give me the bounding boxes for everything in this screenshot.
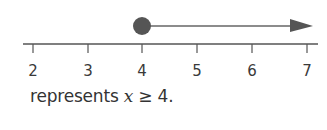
caption-relation: ≥ 4. <box>133 86 173 106</box>
caption-prefix: represents <box>30 86 124 106</box>
tick-label: 3 <box>83 62 93 80</box>
tick-label: 7 <box>302 62 312 80</box>
tick-label: 4 <box>137 62 147 80</box>
tick-group: 234567 <box>28 44 312 80</box>
number-line-diagram: 234567 <box>0 0 327 85</box>
caption-variable: x <box>124 86 133 106</box>
caption-text: represents x ≥ 4. <box>30 86 173 106</box>
closed-point-icon <box>133 17 151 35</box>
tick-label: 5 <box>192 62 202 80</box>
tick-label: 6 <box>247 62 257 80</box>
tick-label: 2 <box>28 62 38 80</box>
arrow-right-icon <box>290 19 313 32</box>
